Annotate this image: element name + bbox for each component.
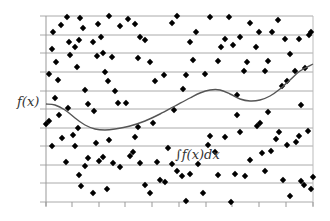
diamond-marker bbox=[72, 44, 78, 50]
diamond-marker bbox=[117, 23, 123, 29]
diamond-marker bbox=[215, 58, 221, 64]
diamond-marker bbox=[244, 59, 250, 65]
diamond-marker bbox=[112, 88, 118, 94]
diamond-marker bbox=[82, 87, 88, 93]
diamond-marker bbox=[50, 29, 56, 35]
diamond-marker bbox=[187, 39, 193, 45]
diamond-marker bbox=[296, 133, 302, 139]
diamond-marker bbox=[85, 101, 91, 107]
diamond-marker bbox=[280, 177, 286, 183]
diamond-marker bbox=[106, 137, 112, 143]
diamond-marker bbox=[147, 59, 153, 65]
diamond-marker bbox=[59, 135, 65, 141]
diamond-marker bbox=[215, 172, 221, 178]
diamond-marker bbox=[287, 51, 293, 57]
diamond-marker bbox=[58, 22, 64, 28]
diamond-marker bbox=[96, 158, 102, 164]
diamond-marker bbox=[82, 163, 88, 169]
diamond-marker bbox=[234, 112, 240, 118]
diamond-marker bbox=[150, 120, 156, 126]
diamond-marker bbox=[135, 55, 141, 61]
x-axis-ticks bbox=[46, 202, 313, 207]
diamond-marker bbox=[78, 183, 84, 189]
diamond-marker bbox=[179, 173, 185, 179]
diamond-marker bbox=[247, 20, 253, 26]
diamond-marker bbox=[310, 174, 316, 180]
diamond-marker bbox=[53, 59, 59, 65]
diamond-marker bbox=[265, 58, 271, 64]
diamond-marker bbox=[174, 13, 180, 19]
diamond-marker bbox=[74, 64, 80, 70]
diamond-marker bbox=[154, 159, 160, 165]
diamond-marker bbox=[109, 54, 115, 60]
diamond-marker bbox=[282, 36, 288, 42]
diamond-marker bbox=[247, 157, 253, 163]
diamond-marker bbox=[52, 95, 58, 101]
diamond-marker bbox=[132, 134, 138, 140]
diamond-marker bbox=[102, 69, 108, 75]
diamond-marker bbox=[187, 171, 193, 177]
diamond-marker bbox=[169, 20, 175, 26]
diamond-marker bbox=[100, 154, 106, 160]
diamond-marker bbox=[55, 77, 61, 83]
diamond-marker bbox=[222, 134, 228, 140]
diamond-marker bbox=[147, 190, 153, 196]
diamond-marker bbox=[305, 128, 311, 134]
diamond-marker bbox=[200, 190, 206, 196]
diamond-marker bbox=[142, 37, 148, 43]
diamond-marker bbox=[256, 29, 262, 35]
diamond-marker bbox=[296, 36, 302, 42]
diamond-marker bbox=[161, 72, 167, 78]
diamond-marker bbox=[269, 29, 275, 35]
diamond-marker bbox=[262, 168, 268, 174]
diamond-marker bbox=[93, 140, 99, 146]
diamond-marker bbox=[273, 136, 279, 142]
diamond-marker bbox=[230, 42, 236, 48]
diamond-marker bbox=[125, 16, 131, 22]
diamond-marker bbox=[262, 68, 268, 74]
diamond-marker bbox=[265, 109, 271, 115]
diamond-marker bbox=[70, 132, 76, 138]
diamond-marker bbox=[56, 112, 62, 118]
diamond-marker bbox=[105, 78, 111, 84]
fx-label: f(x) bbox=[16, 94, 39, 109]
diamond-marker bbox=[218, 44, 224, 50]
diamond-marker bbox=[190, 57, 196, 63]
diamond-marker bbox=[222, 36, 228, 42]
diamond-marker bbox=[64, 14, 70, 20]
diamond-marker bbox=[228, 199, 234, 205]
diamond-marker bbox=[183, 198, 189, 204]
diamond-marker bbox=[49, 46, 55, 52]
diamond-marker bbox=[63, 159, 69, 165]
diamond-marker bbox=[284, 142, 290, 148]
diamond-marker bbox=[232, 171, 238, 177]
diamond-marker bbox=[152, 78, 158, 84]
diamond-marker bbox=[132, 21, 138, 27]
diamond-marker bbox=[75, 125, 81, 131]
diamond-marker bbox=[95, 21, 101, 27]
diamond-marker bbox=[276, 129, 282, 135]
diamond-marker bbox=[193, 29, 199, 35]
diamond-marker bbox=[287, 193, 293, 199]
diamond-marker bbox=[259, 150, 265, 156]
diamond-marker bbox=[66, 39, 72, 45]
diamond-marker bbox=[80, 25, 86, 31]
diamond-marker bbox=[207, 133, 213, 139]
diamond-marker bbox=[226, 14, 232, 20]
diamond-marker bbox=[94, 53, 100, 59]
diamond-marker bbox=[241, 68, 247, 74]
scatter-chart: f(x) ∫f(x)dx bbox=[0, 0, 330, 221]
diamond-marker bbox=[237, 129, 243, 135]
diamond-marker bbox=[183, 72, 189, 78]
diamond-marker bbox=[49, 143, 55, 149]
diamond-marker bbox=[100, 50, 106, 56]
diamond-marker bbox=[115, 100, 121, 106]
function-curve bbox=[46, 64, 313, 130]
diamond-marker bbox=[76, 37, 82, 43]
diamond-marker bbox=[72, 143, 78, 149]
diamond-marker bbox=[174, 168, 180, 174]
diamond-marker bbox=[90, 190, 96, 196]
diamond-marker bbox=[242, 173, 248, 179]
diamond-marker bbox=[298, 102, 304, 108]
integral-label: ∫f(x)dx bbox=[175, 147, 220, 162]
